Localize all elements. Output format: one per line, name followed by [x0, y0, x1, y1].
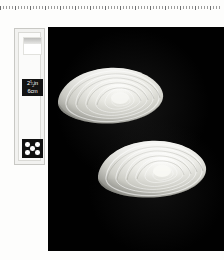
- ruler-tick: [147, 6, 148, 9]
- ruler-tick: [93, 6, 94, 9]
- ruler-tick: [168, 6, 169, 9]
- ruler-tick: [42, 6, 43, 9]
- bivalve-shell-lower: [92, 130, 210, 202]
- ruler-tick: [210, 6, 211, 10]
- ruler-tick: [81, 6, 82, 9]
- ruler-tick: [201, 6, 202, 9]
- ruler-tick: [153, 6, 154, 9]
- ruler-tick: [78, 6, 79, 9]
- ruler-tick: [48, 6, 49, 9]
- ruler-tick: [6, 6, 7, 9]
- shell-sheen: [98, 141, 206, 180]
- ruler-tick: [123, 6, 124, 9]
- registration-dot: [25, 142, 30, 147]
- white-balance-swatch: [23, 37, 42, 55]
- ruler-tick: [27, 6, 28, 9]
- swatch-shadow: [24, 38, 41, 44]
- ruler-tick: [33, 6, 34, 9]
- ruler-tick: [174, 6, 175, 9]
- ruler-tick: [24, 6, 25, 9]
- ruler-tick: [3, 6, 4, 9]
- ruler-tick: [156, 6, 157, 9]
- ruler-tick: [90, 6, 91, 10]
- ruler-tick: [108, 6, 109, 9]
- ruler-tick: [207, 6, 208, 9]
- ruler-tick: [0, 6, 1, 10]
- scale-card-body: 21⁄2in 6cm: [18, 32, 41, 161]
- ruler-tick: [54, 6, 55, 9]
- ruler-tick: [75, 6, 76, 10]
- ruler-tick: [36, 6, 37, 9]
- ruler-tick: [204, 6, 205, 9]
- ruler-tick: [180, 6, 181, 10]
- ruler-tick: [39, 6, 40, 9]
- ruler-tick: [69, 6, 70, 9]
- specimen-scan-page: 21⁄2in 6cm Specimen plate: [0, 0, 224, 260]
- ruler-tick: [102, 6, 103, 9]
- ruler-tick: [114, 6, 115, 9]
- plate-label: Specimen plate: [0, 0, 1, 1]
- registration-dot: [35, 142, 40, 147]
- ruler-tick: [213, 6, 214, 9]
- ruler-tick: [21, 6, 22, 9]
- ruler-tick: [87, 6, 88, 9]
- bivalve-shell-upper: [50, 57, 168, 129]
- ruler-tick: [99, 6, 100, 9]
- ruler-tick: [186, 6, 187, 9]
- ruler-tick: [189, 6, 190, 9]
- ruler-tick: [60, 6, 61, 10]
- ruler-tick: [183, 6, 184, 9]
- ruler-tick: [129, 6, 130, 9]
- ruler-tick: [135, 6, 136, 10]
- ruler-tick: [192, 6, 193, 9]
- ruler-tick: [9, 6, 10, 9]
- ruler-tick: [171, 6, 172, 9]
- ruler-tick: [111, 6, 112, 9]
- registration-dot: [30, 146, 35, 151]
- ruler-tick: [66, 6, 67, 9]
- registration-dot: [35, 150, 40, 155]
- ruler-tick: [84, 6, 85, 9]
- ruler-tick: [177, 6, 178, 9]
- ruler-tick: [219, 6, 220, 9]
- ruler-tick: [18, 6, 19, 9]
- ruler-tick: [126, 6, 127, 9]
- ruler-tick: [63, 6, 64, 9]
- ruler-tick: [72, 6, 73, 9]
- ruler-tick: [57, 6, 58, 9]
- measurement-imperial: 21⁄2in: [27, 80, 38, 88]
- ruler-tick: [12, 6, 13, 9]
- ruler-tick: [141, 6, 142, 9]
- registration-dot-block: [22, 139, 43, 158]
- ruler-tick: [105, 6, 106, 10]
- ruler-tick: [144, 6, 145, 9]
- ruler-tick: [132, 6, 133, 9]
- ruler-tick: [120, 6, 121, 10]
- ruler-tick: [15, 6, 16, 10]
- scale-reference-card: 21⁄2in 6cm: [14, 28, 45, 165]
- shell-sheen: [58, 68, 163, 105]
- ruler-tick: [45, 6, 46, 10]
- specimen-plate: [48, 27, 224, 251]
- ruler-tick: [162, 6, 163, 9]
- ruler-edge: [0, 6, 224, 14]
- ruler-tick: [195, 6, 196, 10]
- registration-dot: [25, 150, 30, 155]
- ruler-tick: [138, 6, 139, 9]
- ruler-tick: [165, 6, 166, 10]
- ruler-tick: [216, 6, 217, 9]
- ruler-tick: [198, 6, 199, 9]
- measurement-metric: 6cm: [28, 89, 38, 95]
- ruler-tick: [51, 6, 52, 9]
- measurement-imperial-unit: in: [34, 80, 38, 86]
- scale-measurement-block: 21⁄2in 6cm: [22, 79, 43, 96]
- ruler-tick: [30, 6, 31, 10]
- ruler-tick: [159, 6, 160, 9]
- ruler-tick: [117, 6, 118, 9]
- ruler-tick: [96, 6, 97, 9]
- ruler-tick: [150, 6, 151, 10]
